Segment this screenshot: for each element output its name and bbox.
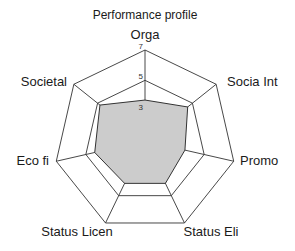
tick-label: 3	[139, 103, 144, 112]
chart-title: Performance profile	[93, 8, 198, 22]
radar-chart: Performance profile 357 Orga Socia Int P…	[0, 0, 295, 251]
tick-label: 7	[139, 42, 144, 51]
axis-label-status-licen: Status Licen	[41, 224, 113, 239]
axis-label-orga: Orga	[131, 27, 161, 42]
series-area	[95, 100, 188, 183]
axis-label-status-eli: Status Eli	[184, 224, 239, 239]
radar-chart-svg: Performance profile 357 Orga Socia Int P…	[0, 0, 295, 251]
axis-label-promo: Promo	[240, 153, 278, 168]
axis-label-socia-int: Socia Int	[227, 74, 278, 89]
axis-label-societal: Societal	[21, 74, 67, 89]
tick-label: 5	[139, 72, 144, 81]
axis-label-eco-fi: Eco fi	[16, 153, 49, 168]
data-series	[95, 100, 188, 183]
